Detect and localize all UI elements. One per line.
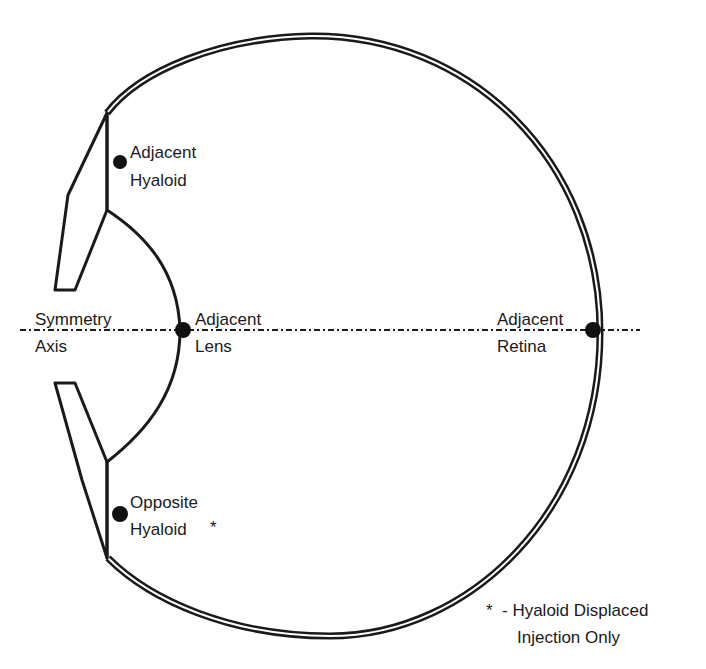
adjacent-hyaloid-label: Adjacent Hyaloid [130,143,201,190]
adjacent-retina-dot [585,322,601,338]
adjacent-retina-label: Adjacent Retina [497,310,568,356]
footnote-line-2: Injection Only [517,628,620,647]
opposite-hyaloid-dot [112,506,128,522]
lens-surface [107,210,180,462]
footnote-line-1: - Hyaloid Displaced [502,601,648,620]
opposite-hyaloid-label: Opposite Hyaloid [130,493,203,539]
opposite-hyaloid-asterisk: * [210,518,217,537]
lower-ciliary-body [55,383,107,558]
adjacent-lens-label: Adjacent Lens [195,310,266,356]
upper-ciliary-body [55,113,107,290]
adjacent-hyaloid-dot [113,155,127,169]
footnote-asterisk: * [486,601,493,620]
adjacent-lens-dot [175,322,191,338]
eye-diagram: Adjacent Hyaloid Symmetry Axis Adjacent … [0,0,706,669]
symmetry-axis-label: Symmetry Axis [35,310,116,356]
